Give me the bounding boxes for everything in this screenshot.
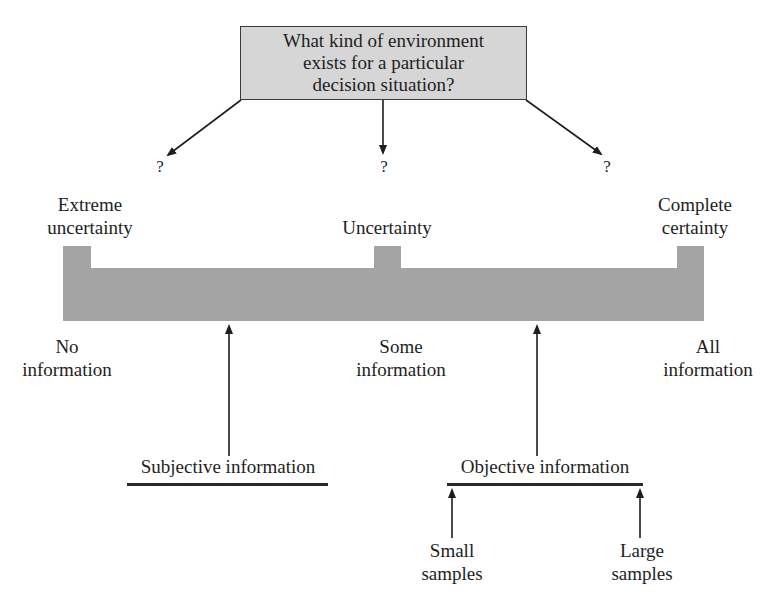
scale-bar-body [63,268,704,321]
info-label-some: Some information [336,335,466,381]
scale-tick-left [63,246,91,268]
info-type-objective: Objective information [432,455,658,478]
subjective-underline [127,483,328,486]
info-label-all: All information [643,335,764,381]
env-label-uncertainty: Uncertainty [322,216,452,239]
sample-label-small: Small samples [402,539,502,585]
info-type-subjective: Subjective information [117,455,339,478]
arrow-to-extreme-uncertainty [168,100,241,155]
sample-label-large: Large samples [592,539,692,585]
question-box: What kind of environment exists for a pa… [240,26,527,100]
scale-tick-center [374,246,401,268]
info-label-none: No information [2,335,132,381]
branch-question-mark-left: ? [150,157,170,177]
branch-question-mark-center: ? [374,157,394,177]
env-label-extreme-uncertainty: Extreme uncertainty [25,193,155,239]
env-label-complete-certainty: Complete certainty [630,193,760,239]
question-text: What kind of environment exists for a pa… [283,30,484,96]
branch-question-mark-right: ? [597,157,617,177]
arrow-to-complete-certainty [526,100,601,154]
scale-tick-right [677,246,704,268]
objective-underline [447,483,643,486]
